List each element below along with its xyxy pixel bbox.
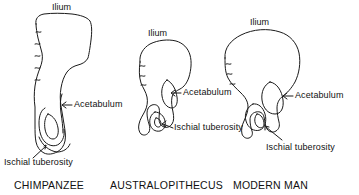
modern-man-ischial-tuberosity-label: Ischial tuberosity <box>266 143 335 152</box>
chimpanzee-acetabulum-leader <box>62 102 72 108</box>
chimpanzee-ischial-tuberosity-label: Ischial tuberosity <box>4 158 73 167</box>
australopithecus-species-label: AUSTRALOPITHECUS <box>110 180 223 191</box>
australopithecus-ilium-label: Ilium <box>148 29 167 38</box>
chimpanzee-pelvis-drawing <box>33 13 92 158</box>
australopithecus-ischial-tuberosity-label: Ischial tuberosity <box>174 123 243 132</box>
figure-canvas: Ilium Acetabulum Ischial tuberosity CHIM… <box>0 0 359 195</box>
chimpanzee-species-label: CHIMPANZEE <box>14 180 84 191</box>
modern-man-species-label: MODERN MAN <box>233 180 308 191</box>
modern-man-ilium-label: Ilium <box>250 18 269 27</box>
australopithecus-acetabulum-label: Acetabulum <box>183 88 232 97</box>
modern-man-acetabulum-label: Acetabulum <box>295 91 344 100</box>
chimpanzee-acetabulum-label: Acetabulum <box>74 100 123 109</box>
modern-man-ischial-tuberosity-outline <box>255 114 264 128</box>
chimpanzee-ilium-label: Ilium <box>52 3 71 12</box>
